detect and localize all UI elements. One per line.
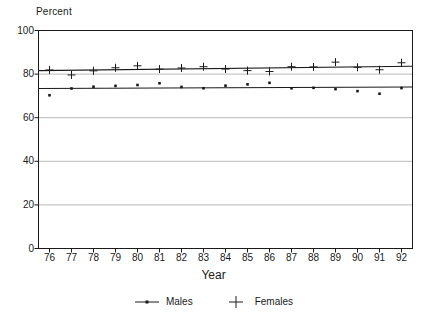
legend-label-males: Males — [166, 296, 193, 308]
x-axis-title: Year — [0, 268, 427, 282]
y-tick-label: 100 — [4, 26, 34, 36]
legend-item-males: Males — [134, 296, 193, 308]
y-tick-label: 40 — [4, 156, 34, 166]
dot-line-marker-icon — [134, 296, 160, 308]
chart-legend: Males Females — [0, 296, 427, 308]
plus-marker-icon — [223, 296, 249, 308]
y-tick-label: 60 — [4, 113, 34, 123]
legend-item-females: Females — [223, 296, 293, 308]
y-axis-title: Percent — [36, 6, 72, 17]
legend-label-females: Females — [255, 296, 293, 308]
y-tick-label: 20 — [4, 200, 34, 210]
y-tick-label: 0 — [4, 244, 34, 254]
chart-figure: Percent 020406080100 7677787980818283848… — [0, 0, 427, 320]
y-tick-label: 80 — [4, 69, 34, 79]
x-tick-label: 92 — [389, 252, 415, 263]
